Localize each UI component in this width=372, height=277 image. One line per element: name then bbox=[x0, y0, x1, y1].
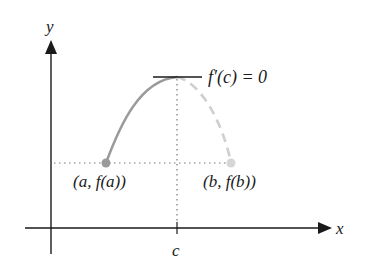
point-b-label: (b, f(b)) bbox=[203, 172, 256, 191]
point-a-label: (a, f(a)) bbox=[73, 172, 126, 191]
y-axis-label: y bbox=[44, 17, 54, 36]
rolle-theorem-diagram: y x c f′(c) = 0 (a, f(a)) (b, f(b)) bbox=[0, 0, 372, 277]
tangent-label: f′(c) = 0 bbox=[208, 67, 267, 88]
y-axis-arrow-icon bbox=[45, 40, 57, 54]
curve-rising-solid bbox=[106, 77, 177, 163]
x-axis-arrow-icon bbox=[318, 222, 332, 234]
c-tick-label: c bbox=[172, 241, 180, 260]
x-axis-label: x bbox=[335, 219, 344, 238]
point-a-marker bbox=[102, 159, 111, 168]
point-b-marker bbox=[227, 159, 236, 168]
curve-falling-dashed bbox=[177, 77, 231, 163]
